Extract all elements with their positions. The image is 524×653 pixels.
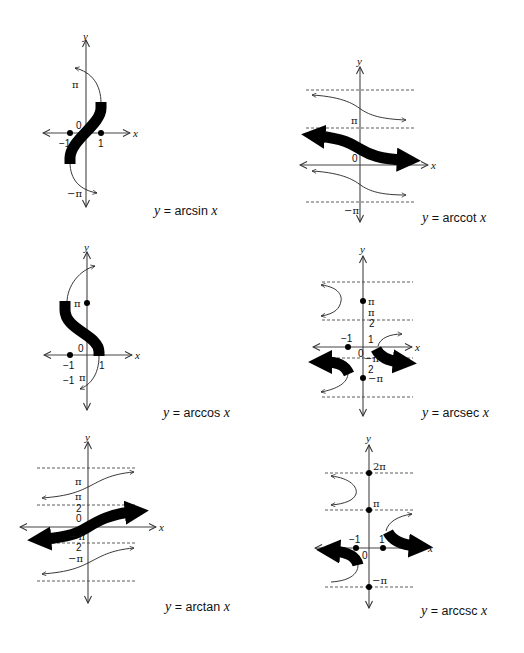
label-pi: π <box>75 476 82 487</box>
label-pi: π <box>74 298 81 309</box>
point-pi <box>84 300 90 306</box>
y-axis-label: y <box>356 55 362 67</box>
label-zero: 0 <box>76 120 82 131</box>
caption-arccos: y = arccos x <box>163 405 230 421</box>
label-neg-pi: −π <box>344 205 359 216</box>
label-zero: 0 <box>352 153 358 164</box>
periodic-branch-upper <box>67 266 95 303</box>
principal-branch-left <box>325 362 349 374</box>
panel-arccos: y x π 0 −1 1 −1 π <box>44 241 140 410</box>
point-neg-pi <box>360 375 366 381</box>
principal-branch-left <box>333 551 358 565</box>
periodic-branch-upper-right <box>386 514 412 531</box>
caption-arccot: y = arccot x <box>422 210 486 226</box>
point-neg-one <box>353 545 359 551</box>
periodic-branch-upper-left <box>321 285 341 316</box>
panel-arccot: y x π 0 −π <box>300 55 436 222</box>
label-one: 1 <box>379 534 385 545</box>
x-axis-label: x <box>134 349 140 361</box>
periodic-branch-upper-right <box>378 334 402 346</box>
label-two-pi: 2π <box>373 461 386 472</box>
label-neg-one: −1 <box>341 333 353 344</box>
label-neg-half-pi-num: −π <box>364 353 379 364</box>
point-neg-one <box>67 130 73 136</box>
label-neg-pi: −π <box>68 553 83 564</box>
periodic-branch-lower <box>312 171 406 195</box>
x-axis-label: x <box>430 159 436 171</box>
point-pi <box>366 507 372 513</box>
label-pi: π <box>368 296 375 307</box>
periodic-branch-upper <box>75 68 101 103</box>
label-neg-pi: −π <box>372 575 387 586</box>
x-axis-label: x <box>132 127 138 139</box>
label-half-pi-num: π <box>75 491 82 502</box>
caption-arcsin: y = arcsin x <box>154 203 218 219</box>
panel-arccsc: y x 2π π −1 1 0 −π <box>315 432 433 608</box>
x-axis-label: x <box>427 542 433 554</box>
caption-arcsec: y = arcsec x <box>422 405 489 421</box>
label-neg-one: −1 <box>59 138 71 149</box>
panel-arcsec: y x π π 2 −1 1 0 −π 2 −π <box>313 243 420 416</box>
x-axis-label: x <box>158 521 164 533</box>
label-zero: 0 <box>362 550 368 561</box>
label-zero: 0 <box>78 343 84 354</box>
point-one <box>98 130 104 136</box>
point-neg-one <box>345 344 351 350</box>
label-neg-pi: −π <box>368 373 383 384</box>
panel-arcsin: y x π −π 0 −1 1 <box>43 30 138 207</box>
x-axis-label: x <box>414 341 420 353</box>
y-axis-label: y <box>84 431 90 443</box>
principal-branch-right <box>388 532 416 546</box>
y-axis-label: y <box>83 241 89 253</box>
label-neg-half-pi-num: −π <box>70 531 85 542</box>
label-pi: π <box>351 115 358 126</box>
label-neg-pi: −π <box>67 188 82 199</box>
periodic-branch-lower-left <box>331 565 358 582</box>
label-neg-one-pi-a: −1 <box>63 375 75 386</box>
label-one: 1 <box>98 138 104 149</box>
label-zero: 0 <box>76 513 82 524</box>
label-neg-one: −1 <box>349 534 361 545</box>
label-neg-half-pi-den: 2 <box>76 542 82 553</box>
label-pi: π <box>72 79 79 90</box>
label-half-pi-den: 2 <box>369 318 375 329</box>
caption-arccsc: y = arccsc x <box>421 603 487 619</box>
label-neg-one: −1 <box>63 360 75 371</box>
label-pi: π <box>373 498 380 509</box>
point-neg-one <box>67 352 73 358</box>
caption-arctan: y = arctan x <box>165 599 230 615</box>
periodic-branch-upper <box>312 95 406 120</box>
inverse-trig-figure: y x π −π 0 −1 1 y x π 0 −π y x <box>0 0 524 653</box>
label-one: 1 <box>99 360 105 371</box>
point-pi <box>360 298 366 304</box>
principal-branch-right <box>376 349 400 362</box>
y-axis-label: y <box>359 243 365 255</box>
label-one: 1 <box>368 334 374 345</box>
y-axis-label: y <box>82 30 88 42</box>
label-neg-one-pi-b: π <box>79 372 86 383</box>
point-two-pi <box>366 470 372 476</box>
periodic-branch-upper-left <box>331 476 356 505</box>
panel-arctan: y x π π 2 0 −π 2 −π <box>20 431 164 603</box>
label-half-pi-num: π <box>368 307 375 318</box>
y-axis-label: y <box>365 432 371 444</box>
point-one <box>380 545 386 551</box>
principal-branch-curve <box>318 136 404 160</box>
